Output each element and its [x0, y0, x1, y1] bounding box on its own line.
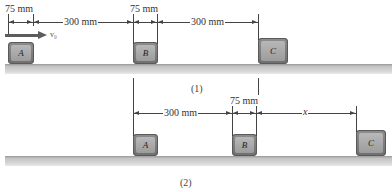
arrow-left-icon — [233, 111, 238, 115]
ext-line-c-left — [258, 14, 259, 40]
block-b-1: B — [133, 42, 158, 64]
ground-1 — [5, 64, 392, 74]
ext-line-c2-left — [356, 106, 357, 132]
block-c-2: C — [356, 130, 386, 156]
arrow-right-icon — [127, 20, 132, 24]
arrow-right-icon — [27, 20, 32, 24]
dim-label-b-to-c: 300 mm — [190, 16, 225, 27]
block-b-2-label: B — [235, 137, 254, 153]
arrow-left-icon — [134, 111, 139, 115]
dim-label-x: x — [302, 106, 308, 117]
ext-line-b-left — [133, 14, 134, 44]
arrow-left-icon — [158, 20, 163, 24]
block-b-2: B — [232, 134, 257, 156]
block-b-1-label: B — [136, 45, 155, 61]
block-c-1-label: C — [261, 41, 285, 61]
figure-1-caption: (1) — [191, 83, 203, 94]
arrow-left-icon — [134, 20, 139, 24]
figure-2-caption: (2) — [180, 177, 192, 188]
velocity-arrow-icon — [38, 31, 47, 39]
ext-line-b-right — [157, 14, 158, 44]
arrow-right-icon — [252, 20, 257, 24]
arrow-right-icon — [350, 111, 355, 115]
arrow-left-icon — [34, 20, 39, 24]
dim-label-a-to-b-2: 300 mm — [163, 107, 198, 118]
ext-line-a-left — [8, 14, 9, 34]
block-a-1: A — [8, 42, 34, 64]
velocity-arrow-shaft — [5, 34, 40, 37]
dim-label-b-width-2: 75 mm — [229, 95, 259, 106]
arrow-right-icon — [226, 111, 231, 115]
ext-line-a2-left — [133, 78, 134, 136]
block-a-2: A — [133, 134, 158, 156]
arrow-left-icon — [9, 20, 14, 24]
arrow-left-icon — [257, 111, 262, 115]
ground-2 — [5, 156, 392, 166]
arrow-right-icon — [151, 20, 156, 24]
dim-label-a-width: 75 mm — [4, 3, 34, 14]
dim-label-b-width: 75 mm — [129, 3, 159, 14]
arrow-right-icon — [250, 111, 255, 115]
block-c-1: C — [258, 38, 288, 64]
block-a-1-label: A — [11, 45, 31, 61]
block-a-2-label: A — [136, 137, 155, 153]
velocity-label: v₀ — [50, 30, 57, 39]
block-c-2-label: C — [359, 133, 383, 153]
dim-label-a-to-b: 300 mm — [63, 16, 98, 27]
